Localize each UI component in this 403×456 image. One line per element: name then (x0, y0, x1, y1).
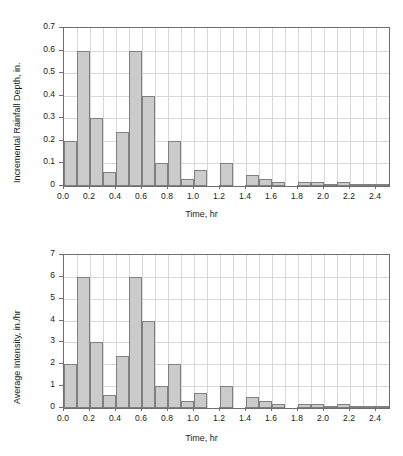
bar (116, 356, 129, 408)
x-axis-minor-tick (310, 185, 311, 187)
y-axis-tick (59, 341, 63, 342)
y-axis-tick-label: 0.2 (29, 134, 55, 144)
x-axis-tick (89, 185, 90, 189)
y-axis-tick (59, 276, 63, 277)
x-axis-title: Time, hr (0, 433, 403, 443)
x-axis-minor-tick (362, 407, 363, 409)
y-axis-tick-label: 0.5 (29, 66, 55, 76)
x-axis-minor-tick (310, 407, 311, 409)
bar (64, 364, 77, 408)
y-axis-tick (59, 140, 63, 141)
y-axis-tick (59, 385, 63, 386)
plot-area (63, 27, 390, 187)
y-axis-tick (59, 254, 63, 255)
y-axis-tick (59, 95, 63, 96)
x-axis-tick (63, 185, 64, 189)
x-axis-tick (141, 185, 142, 189)
x-axis-minor-tick (206, 407, 207, 409)
x-axis-tick (115, 407, 116, 411)
bar (116, 132, 129, 186)
x-axis-tick (245, 407, 246, 411)
y-axis-tick-label: 0.7 (29, 21, 55, 31)
bar (103, 172, 116, 186)
y-axis-tick (59, 50, 63, 51)
y-axis-tick (59, 298, 63, 299)
x-axis-tick-label: 2.4 (360, 413, 390, 423)
y-axis-tick-label: 5 (29, 292, 55, 302)
bar (155, 163, 168, 186)
x-axis-minor-tick (258, 407, 259, 409)
x-axis-tick (63, 407, 64, 411)
bar (90, 342, 103, 408)
y-axis-tick (59, 185, 63, 186)
x-axis-tick (219, 407, 220, 411)
y-axis-title: Incremental Rainfall Depth, in. (12, 62, 22, 183)
y-axis-tick-label: 0.4 (29, 89, 55, 99)
x-axis-tick-label: 2.4 (360, 191, 390, 201)
y-axis-tick-label: 0.1 (29, 156, 55, 166)
bar-series (64, 255, 389, 408)
y-axis-tick-label: 6 (29, 270, 55, 280)
x-axis-minor-tick (76, 185, 77, 187)
x-axis-minor-tick (284, 185, 285, 187)
x-axis-minor-tick (388, 407, 389, 409)
x-axis-tick (141, 407, 142, 411)
bar (194, 170, 207, 186)
y-axis-tick-label: 0.6 (29, 44, 55, 54)
chart-average-intensity: 0.00.20.40.60.81.01.21.41.61.82.02.22.40… (0, 228, 403, 456)
x-axis-minor-tick (154, 407, 155, 409)
x-axis-minor-tick (232, 407, 233, 409)
bar (220, 163, 233, 186)
x-axis-minor-tick (232, 185, 233, 187)
bar (220, 386, 233, 408)
bar (168, 141, 181, 186)
bar-series (64, 28, 389, 186)
bar (77, 277, 90, 408)
x-axis-tick (323, 407, 324, 411)
x-axis-minor-tick (76, 407, 77, 409)
x-axis-tick (349, 407, 350, 411)
x-axis-minor-tick (128, 407, 129, 409)
x-axis-tick (349, 185, 350, 189)
x-axis-tick (245, 185, 246, 189)
x-axis-minor-tick (336, 407, 337, 409)
y-axis-tick (59, 72, 63, 73)
x-axis-minor-tick (180, 185, 181, 187)
x-axis-tick (193, 407, 194, 411)
y-axis-tick (59, 27, 63, 28)
x-axis-minor-tick (154, 185, 155, 187)
bar (155, 386, 168, 408)
bar (142, 321, 155, 408)
y-axis-tick-label: 1 (29, 379, 55, 389)
chart-incremental-rainfall-depth: 0.00.20.40.60.81.01.21.41.61.82.02.22.40… (0, 0, 403, 228)
x-axis-minor-tick (102, 185, 103, 187)
y-axis-tick-label: 0 (29, 179, 55, 189)
x-axis-tick (297, 407, 298, 411)
x-axis-minor-tick (336, 185, 337, 187)
x-axis-minor-tick (362, 185, 363, 187)
bar (142, 96, 155, 186)
y-axis-tick-label: 0 (29, 401, 55, 411)
y-axis-tick (59, 117, 63, 118)
y-axis-tick (59, 320, 63, 321)
bar (129, 277, 142, 408)
x-axis-tick (89, 407, 90, 411)
x-axis-tick (193, 185, 194, 189)
x-axis-tick (375, 407, 376, 411)
x-axis-tick (271, 185, 272, 189)
x-axis-tick (167, 185, 168, 189)
y-axis-tick (59, 162, 63, 163)
x-axis-minor-tick (284, 407, 285, 409)
y-axis-tick-label: 0.3 (29, 111, 55, 121)
bar (194, 393, 207, 408)
x-axis-tick (219, 185, 220, 189)
bar (129, 51, 142, 186)
bar (90, 118, 103, 186)
y-axis-tick-label: 7 (29, 248, 55, 258)
x-axis-tick (375, 185, 376, 189)
x-axis-minor-tick (102, 407, 103, 409)
y-axis-tick (59, 363, 63, 364)
x-axis-minor-tick (388, 185, 389, 187)
x-axis-tick (297, 185, 298, 189)
x-axis-title: Time, hr (0, 209, 403, 219)
